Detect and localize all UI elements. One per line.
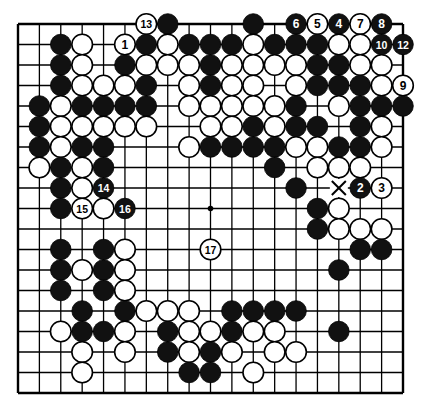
white-stone <box>72 362 93 383</box>
black-stone <box>200 34 221 55</box>
move-number-label: 9 <box>400 79 407 93</box>
black-stone <box>307 116 328 137</box>
white-stone <box>371 55 392 76</box>
white-stone <box>72 75 93 96</box>
white-stone <box>136 116 157 137</box>
cross-marker-icon <box>330 179 348 197</box>
white-stone <box>286 75 307 96</box>
black-stone <box>264 157 285 178</box>
white-stone <box>29 157 50 178</box>
black-stone <box>243 14 264 35</box>
black-stone <box>350 75 371 96</box>
black-stone <box>50 280 71 301</box>
white-stone <box>222 75 243 96</box>
white-stone <box>329 96 350 117</box>
black-stone <box>243 301 264 322</box>
white-stone: 9 <box>393 75 414 96</box>
black-stone <box>50 239 71 260</box>
black-stone <box>200 137 221 158</box>
black-stone <box>157 14 178 35</box>
black-stone: 8 <box>371 14 392 35</box>
black-stone <box>200 75 221 96</box>
white-stone <box>350 157 371 178</box>
move-number-label: 4 <box>335 17 342 31</box>
white-stone <box>329 157 350 178</box>
white-stone <box>200 321 221 342</box>
black-stone <box>72 301 93 322</box>
white-stone <box>307 157 328 178</box>
white-stone <box>72 178 93 199</box>
black-stone <box>50 178 71 199</box>
black-stone <box>93 239 114 260</box>
white-stone <box>264 55 285 76</box>
black-stone <box>136 96 157 117</box>
white-stone <box>50 137 71 158</box>
black-stone <box>329 260 350 281</box>
black-stone <box>243 116 264 137</box>
white-stone <box>243 362 264 383</box>
move-number-label: 7 <box>357 17 364 31</box>
black-stone <box>115 96 136 117</box>
black-stone <box>286 178 307 199</box>
white-stone: 15 <box>72 198 93 219</box>
white-stone <box>264 321 285 342</box>
black-stone <box>264 34 285 55</box>
white-stone <box>350 219 371 240</box>
black-stone <box>29 96 50 117</box>
white-stone <box>115 280 136 301</box>
black-stone: 6 <box>286 14 307 35</box>
black-stone <box>50 55 71 76</box>
black-stone <box>222 301 243 322</box>
white-stone <box>157 55 178 76</box>
white-stone <box>264 96 285 117</box>
white-stone <box>179 301 200 322</box>
black-stone: 16 <box>115 198 136 219</box>
white-stone <box>179 96 200 117</box>
move-number-label: 3 <box>378 181 385 195</box>
black-stone <box>200 342 221 363</box>
white-stone <box>286 137 307 158</box>
black-stone: 2 <box>350 178 371 199</box>
white-stone <box>72 342 93 363</box>
black-stone: 14 <box>93 178 114 199</box>
black-stone <box>307 34 328 55</box>
white-stone <box>179 55 200 76</box>
white-stone <box>179 342 200 363</box>
black-stone <box>350 137 371 158</box>
go-board: 13654781101291423151617 <box>0 0 427 409</box>
white-stone <box>50 321 71 342</box>
white-stone <box>72 157 93 178</box>
move-number-label: 13 <box>140 18 152 30</box>
black-stone <box>307 219 328 240</box>
black-stone <box>29 137 50 158</box>
move-number-label: 17 <box>205 244 217 256</box>
black-stone <box>264 301 285 322</box>
white-stone <box>222 96 243 117</box>
white-stone <box>329 34 350 55</box>
white-stone <box>371 137 392 158</box>
board-markers <box>330 179 348 197</box>
white-stone <box>72 116 93 137</box>
move-number-label: 12 <box>397 39 409 51</box>
black-stone <box>393 96 414 117</box>
black-stone <box>115 301 136 322</box>
black-stone <box>222 321 243 342</box>
black-stone <box>329 55 350 76</box>
black-stone <box>93 260 114 281</box>
white-stone <box>115 75 136 96</box>
white-stone <box>93 75 114 96</box>
white-stone <box>264 116 285 137</box>
white-stone: 3 <box>371 178 392 199</box>
white-stone <box>243 96 264 117</box>
black-stone <box>179 362 200 383</box>
black-stone <box>350 239 371 260</box>
black-stone <box>93 321 114 342</box>
black-stone <box>93 280 114 301</box>
black-stone <box>307 198 328 219</box>
black-stone <box>50 75 71 96</box>
move-number-label: 14 <box>98 182 110 194</box>
black-stone <box>307 75 328 96</box>
white-stone <box>371 75 392 96</box>
star-point <box>208 206 214 212</box>
white-stone <box>329 198 350 219</box>
